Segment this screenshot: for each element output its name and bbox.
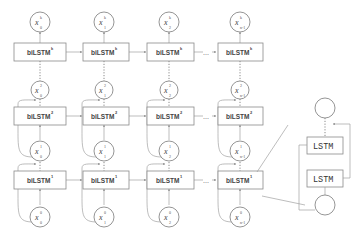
- svg-text:biLSTM: biLSTM: [156, 177, 179, 184]
- ellipsis-bottom: ...: [203, 177, 209, 184]
- ellipsis-top: ...: [203, 49, 209, 56]
- inset-output-node: [315, 98, 335, 118]
- column-2: biLSTM k biLSTM 2 biLSTM 1 x k 2 x 2 2 x…: [147, 12, 194, 227]
- svg-text:2: 2: [40, 83, 42, 88]
- inset-lstm-upper-label: LSTM: [313, 142, 333, 152]
- svg-text:1: 1: [104, 154, 106, 159]
- column-0: biLSTM k biLSTM 2 biLSTM 1 x k 0 x 2 0 x…: [14, 12, 66, 227]
- svg-text:x: x: [34, 18, 39, 27]
- svg-text:0: 0: [104, 210, 106, 215]
- svg-text:1: 1: [169, 144, 171, 149]
- svg-text:biLSTM: biLSTM: [27, 177, 50, 184]
- stacked-bilstm-diagram: ... ... ... biLSTM k biLSTM 2 biLSTM 1 x…: [0, 0, 353, 240]
- svg-text:0: 0: [40, 93, 42, 98]
- column-n-minus-1: biLSTM k biLSTM 2 biLSTM 1 x k n-1 x 2 n…: [218, 12, 263, 227]
- callout-line-upper: [257, 125, 288, 172]
- svg-text:1: 1: [104, 220, 106, 225]
- svg-text:2: 2: [169, 25, 171, 30]
- svg-text:0: 0: [40, 220, 42, 225]
- svg-text:x: x: [34, 86, 39, 95]
- svg-text:0: 0: [240, 210, 242, 215]
- svg-text:0: 0: [169, 210, 171, 215]
- svg-text:1: 1: [40, 144, 42, 149]
- svg-text:2: 2: [169, 93, 171, 98]
- svg-text:x: x: [234, 213, 239, 222]
- svg-text:n-1: n-1: [240, 220, 245, 225]
- svg-text:biLSTM: biLSTM: [91, 49, 114, 56]
- svg-text:x: x: [163, 213, 168, 222]
- svg-text:n-1: n-1: [240, 93, 245, 98]
- svg-text:2: 2: [104, 83, 106, 88]
- svg-text:2: 2: [169, 154, 171, 159]
- svg-text:biLSTM: biLSTM: [226, 49, 249, 56]
- svg-text:x: x: [98, 18, 103, 27]
- callout-line-lower: [262, 196, 305, 205]
- svg-text:1: 1: [240, 144, 242, 149]
- svg-text:x: x: [98, 86, 103, 95]
- svg-text:1: 1: [104, 25, 106, 30]
- inset-input-node: [315, 195, 335, 215]
- svg-text:x: x: [34, 147, 39, 156]
- svg-text:1: 1: [104, 93, 106, 98]
- svg-text:k: k: [169, 15, 171, 20]
- svg-text:x: x: [34, 213, 39, 222]
- svg-text:x: x: [234, 147, 239, 156]
- svg-text:x: x: [234, 18, 239, 27]
- svg-text:x: x: [234, 86, 239, 95]
- svg-text:k: k: [40, 15, 42, 20]
- svg-text:2: 2: [169, 83, 171, 88]
- svg-text:0: 0: [40, 210, 42, 215]
- column-1: biLSTM k biLSTM 2 biLSTM 1 x k 1 x 2 1 x…: [82, 12, 129, 227]
- svg-text:x: x: [163, 86, 168, 95]
- svg-text:0: 0: [40, 25, 42, 30]
- svg-text:0: 0: [40, 154, 42, 159]
- svg-text:k: k: [104, 15, 106, 20]
- svg-text:biLSTM: biLSTM: [27, 49, 50, 56]
- svg-text:biLSTM: biLSTM: [156, 49, 179, 56]
- svg-text:x: x: [98, 213, 103, 222]
- svg-text:n-1: n-1: [240, 25, 245, 30]
- svg-text:2: 2: [240, 83, 242, 88]
- svg-text:2: 2: [169, 220, 171, 225]
- svg-text:biLSTM: biLSTM: [91, 177, 114, 184]
- inset-lstm-lower-label: LSTM: [313, 175, 333, 185]
- lstm-inset: LSTM LSTM: [299, 98, 350, 215]
- svg-text:biLSTM: biLSTM: [156, 113, 179, 120]
- svg-text:biLSTM: biLSTM: [226, 113, 249, 120]
- svg-text:x: x: [163, 147, 168, 156]
- svg-text:n-1: n-1: [240, 154, 245, 159]
- svg-text:k: k: [240, 15, 242, 20]
- svg-text:biLSTM: biLSTM: [226, 177, 249, 184]
- svg-text:1: 1: [104, 144, 106, 149]
- svg-text:biLSTM: biLSTM: [91, 113, 114, 120]
- svg-text:x: x: [163, 18, 168, 27]
- svg-text:biLSTM: biLSTM: [27, 113, 50, 120]
- svg-text:x: x: [98, 147, 103, 156]
- ellipsis-middle: ...: [203, 113, 209, 120]
